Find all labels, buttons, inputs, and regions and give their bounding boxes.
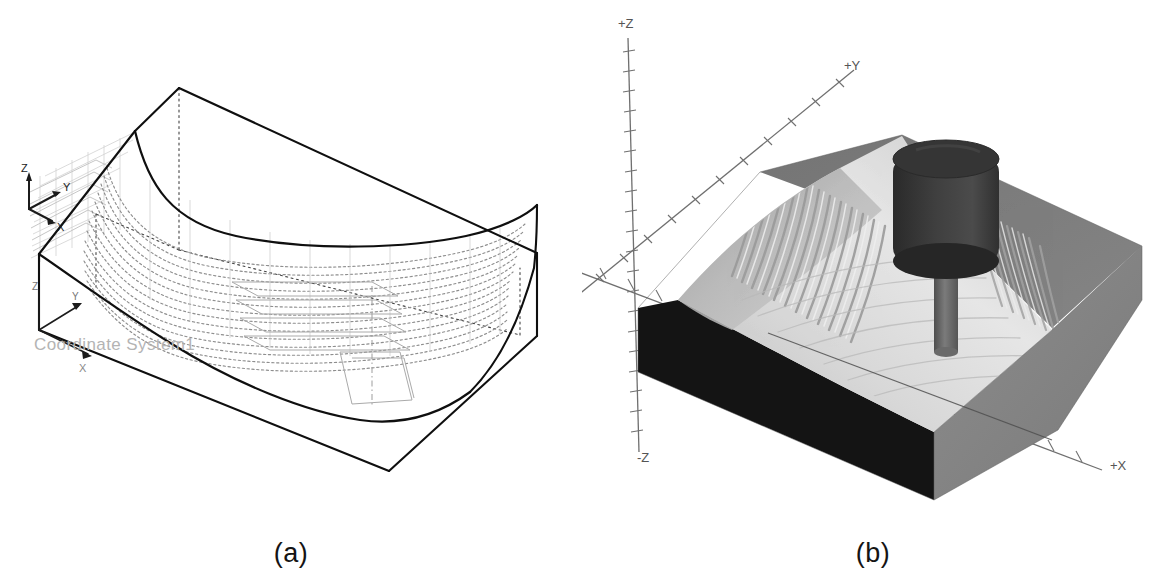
origin-label-x: X [79, 362, 87, 374]
surface-rulings [150, 180, 500, 356]
axis-label-z-positive: +Z [618, 16, 634, 31]
triad-label-x: X [57, 221, 65, 233]
tool-holder [893, 140, 999, 279]
axis-label-z-negative: -Z [637, 450, 649, 465]
axis-label-x-positive: +X [1110, 458, 1127, 473]
figure-root: Wireframe CAD model of saddle-shaped poc… [0, 0, 1164, 575]
left-wall-terraces [30, 160, 112, 251]
panel-b-machining-simulation: Shaded machining simulation of the sculp… [582, 0, 1164, 575]
axis-z-line [628, 38, 639, 452]
coordinate-triad: Z Y X [21, 162, 71, 233]
caption-a: (a) [0, 538, 582, 569]
panel-a-wireframe-cad: Wireframe CAD model of saddle-shaped poc… [0, 0, 582, 575]
coordinate-system-label: Coordinate System1 [34, 335, 195, 354]
block-outline [39, 88, 537, 471]
pocket-rim-upper [135, 131, 537, 247]
origin-marker: Z Y X [32, 281, 92, 374]
origin-label-y: Y [72, 291, 79, 302]
origin-label-z: Z [32, 281, 38, 292]
pocket-floor-steps [232, 282, 414, 404]
triad-label-y: Y [63, 181, 71, 193]
panel-b-canvas: +Z -Z +Y +X [582, 0, 1164, 575]
panel-a-canvas: Z Y X Z Y X [0, 0, 582, 575]
caption-b: (b) [582, 538, 1164, 569]
triad-label-z: Z [21, 162, 28, 174]
axis-label-y-positive: +Y [844, 58, 861, 73]
